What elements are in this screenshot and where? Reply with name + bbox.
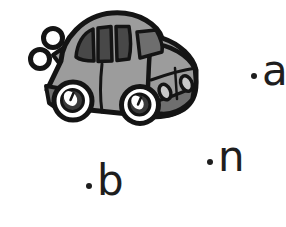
- door-line: [101, 64, 103, 112]
- worksheet-panel: a n b: [0, 0, 286, 227]
- wind-up-car-illustration: [0, 0, 286, 227]
- front-wheel: [122, 87, 159, 124]
- option-a-label: a: [262, 50, 286, 92]
- option-n[interactable]: n: [207, 138, 245, 180]
- option-b-label: b: [97, 160, 124, 202]
- option-n-dot: [207, 159, 213, 165]
- rear-wheel: [54, 82, 92, 120]
- option-b-dot: [86, 183, 92, 189]
- windshield: [137, 30, 162, 58]
- option-n-label: n: [218, 136, 245, 178]
- option-a-dot: [251, 73, 257, 79]
- option-a[interactable]: a: [251, 52, 286, 94]
- car-windows: [76, 27, 162, 62]
- option-b[interactable]: b: [86, 162, 124, 204]
